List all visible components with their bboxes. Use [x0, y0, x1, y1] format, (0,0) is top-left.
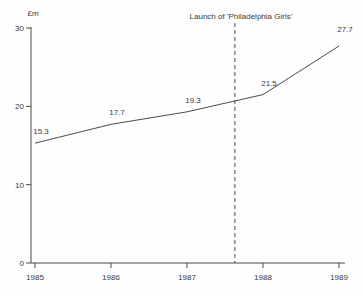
data-point-label: 27.7 [337, 25, 353, 34]
y-tick-label: 10 [15, 181, 24, 190]
x-tick-label: 1986 [102, 273, 120, 282]
x-tick-label: 1989 [330, 273, 348, 282]
chart-canvas: 010203019851986198719881989£mLaunch of '… [0, 0, 363, 296]
x-tick-label: 1985 [26, 273, 44, 282]
data-point-label: 19.3 [185, 96, 201, 105]
data-point-label: 21.5 [261, 79, 277, 88]
y-tick-label: 20 [15, 102, 24, 111]
x-tick-label: 1988 [254, 273, 272, 282]
data-point-label: 17.7 [109, 108, 125, 117]
x-tick-label: 1987 [178, 273, 196, 282]
launch-annotation-label: Launch of 'Philadelphia Girls' [190, 12, 293, 21]
y-tick-label: 30 [15, 24, 24, 33]
y-axis-unit-label: £m [27, 9, 38, 18]
data-point-label: 15.3 [33, 127, 49, 136]
revenue-trend-line [35, 46, 339, 143]
y-tick-label: 0 [20, 259, 25, 268]
line-chart: 010203019851986198719881989£mLaunch of '… [0, 0, 363, 296]
